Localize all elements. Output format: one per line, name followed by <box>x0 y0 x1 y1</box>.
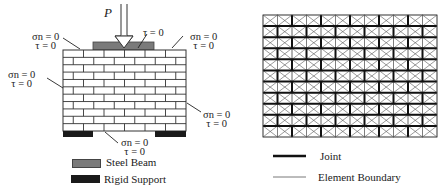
legend-label-joint: Joint <box>320 150 341 162</box>
element-mesh <box>263 15 437 137</box>
legend-label-element-boundary: Element Boundary <box>318 171 401 183</box>
mesh-drawing <box>0 0 445 196</box>
